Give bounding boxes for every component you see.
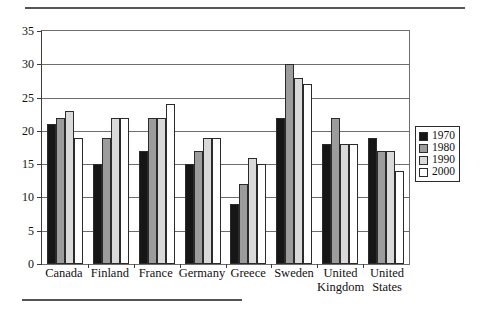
x-axis-category-label: Finland xyxy=(87,267,133,294)
legend-item: 1990 xyxy=(419,154,455,166)
legend-item-label: 2000 xyxy=(432,166,455,178)
legend-item-label: 1980 xyxy=(432,142,455,154)
bar xyxy=(185,164,194,264)
y-axis-tick-label: 25 xyxy=(22,92,34,104)
y-axis-tick-label: 15 xyxy=(22,158,34,170)
bar xyxy=(340,144,349,264)
y-axis-tick-label: 35 xyxy=(22,25,34,37)
bar xyxy=(303,84,312,264)
bar xyxy=(203,138,212,264)
bar xyxy=(65,111,74,264)
y-axis-tick-label: 30 xyxy=(22,58,34,70)
bar xyxy=(386,151,395,264)
legend-color-swatch xyxy=(419,132,428,141)
x-axis-category-label: Greece xyxy=(225,267,271,294)
x-axis-category-label: Canada xyxy=(41,267,87,294)
bar xyxy=(93,164,102,264)
bar xyxy=(331,118,340,264)
y-axis-tick-label: 10 xyxy=(22,191,34,203)
bar xyxy=(74,138,83,264)
legend-item: 2000 xyxy=(419,166,455,178)
bar-group xyxy=(271,31,317,264)
plot-area xyxy=(42,31,409,264)
bar xyxy=(166,104,175,264)
bar-group xyxy=(180,31,226,264)
bar xyxy=(248,158,257,265)
x-axis-labels: CanadaFinlandFranceGermanyGreeceSwedenUn… xyxy=(41,267,410,294)
legend-item-label: 1970 xyxy=(432,130,455,142)
chart-legend: 1970198019902000 xyxy=(415,126,460,182)
bar xyxy=(239,184,248,264)
bar xyxy=(139,151,148,264)
x-axis-category-label: UnitedStates xyxy=(364,267,410,294)
bar xyxy=(120,118,129,264)
legend-item-label: 1990 xyxy=(432,154,455,166)
legend-color-swatch xyxy=(419,168,428,177)
bar-chart-figure: 05101520253035 CanadaFinlandFranceGerman… xyxy=(0,0,480,318)
bar xyxy=(377,151,386,264)
page-rule-bottom xyxy=(22,299,242,301)
bar-group xyxy=(134,31,180,264)
y-axis-tick-label: 20 xyxy=(22,125,34,137)
bar xyxy=(276,118,285,264)
bar xyxy=(157,118,166,264)
bar xyxy=(368,138,377,264)
bar-group xyxy=(363,31,409,264)
y-axis-tick-label: 5 xyxy=(28,225,34,237)
x-axis-category-label: Germany xyxy=(179,267,226,294)
bar xyxy=(194,151,203,264)
legend-item: 1980 xyxy=(419,142,455,154)
bar xyxy=(230,204,239,264)
legend-color-swatch xyxy=(419,144,428,153)
bar xyxy=(148,118,157,264)
x-axis-category-label: France xyxy=(133,267,179,294)
bar-group xyxy=(317,31,363,264)
bar-group xyxy=(88,31,134,264)
bar xyxy=(294,78,303,264)
bar xyxy=(111,118,120,264)
bar xyxy=(285,64,294,264)
y-axis-tick xyxy=(37,264,42,265)
legend-color-swatch xyxy=(419,156,428,165)
bar xyxy=(257,164,266,264)
x-axis-category-label: UnitedKingdom xyxy=(317,267,364,294)
bar xyxy=(395,171,404,264)
bar xyxy=(349,144,358,264)
bar-group xyxy=(226,31,272,264)
legend-item: 1970 xyxy=(419,130,455,142)
x-axis-category-label: Sweden xyxy=(271,267,317,294)
bar-group xyxy=(42,31,88,264)
y-axis-tick-label: 0 xyxy=(28,258,34,270)
bar xyxy=(212,138,221,264)
plot-frame: 05101520253035 xyxy=(41,30,410,265)
bar xyxy=(56,118,65,264)
bar xyxy=(102,138,111,264)
bar xyxy=(322,144,331,264)
bar xyxy=(47,124,56,264)
